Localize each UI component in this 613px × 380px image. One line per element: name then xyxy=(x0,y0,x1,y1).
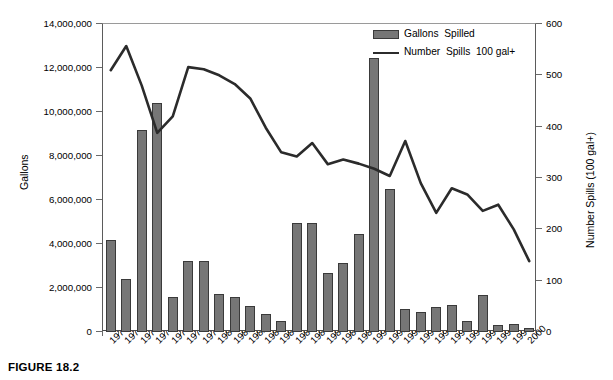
right-axis-tick-label: 200 xyxy=(546,223,606,234)
figure-container: Gallons Number Spills (100 gal+) 02,000,… xyxy=(0,0,613,380)
legend-label-gallons-spilled: Gallons Spilled xyxy=(404,29,475,39)
right-axis-tick-label: 100 xyxy=(546,274,606,285)
legend-line-swatch-icon xyxy=(373,52,399,54)
left-axis-tick-label: 10,000,000 xyxy=(0,106,92,117)
figure-caption: FIGURE 18.2 xyxy=(8,361,79,373)
right-axis-title-wrap: Number Spills (100 gal+) xyxy=(580,0,596,380)
right-axis-tick-label: 300 xyxy=(546,172,606,183)
legend: Gallons Spilled Number Spills 100 gal+ xyxy=(373,27,515,63)
left-axis-title-wrap: Gallons xyxy=(14,0,28,380)
left-axis-tick-label: 4,000,000 xyxy=(0,238,92,249)
left-axis-tick-label: 2,000,000 xyxy=(0,282,92,293)
line-series-group xyxy=(103,24,537,332)
line-path xyxy=(111,46,530,261)
right-axis-tick-label: 400 xyxy=(546,120,606,131)
left-axis-tick-label: 0 xyxy=(0,326,92,337)
left-axis-tick-label: 12,000,000 xyxy=(0,62,92,73)
legend-item-gallons-spilled: Gallons Spilled xyxy=(373,27,515,42)
left-axis-tick-label: 6,000,000 xyxy=(0,194,92,205)
left-axis-tick-label: 8,000,000 xyxy=(0,150,92,161)
plot-area xyxy=(102,23,536,331)
right-axis-tick-label: 0 xyxy=(546,326,606,337)
legend-label-number-spills: Number Spills 100 gal+ xyxy=(404,47,515,57)
right-axis-tick-label: 500 xyxy=(546,69,606,80)
right-axis-tick-label: 600 xyxy=(546,18,606,29)
legend-bar-swatch-icon xyxy=(373,30,399,39)
legend-item-number-spills: Number Spills 100 gal+ xyxy=(373,45,515,60)
left-axis-tick-label: 14,000,000 xyxy=(0,18,92,29)
